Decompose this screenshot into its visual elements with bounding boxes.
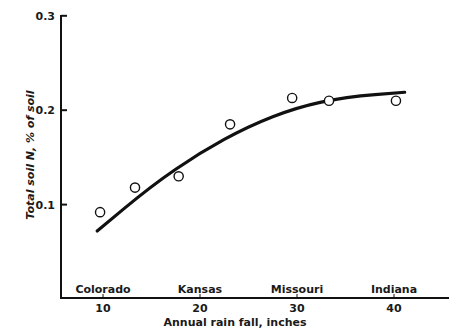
region-label: Indiana [371,283,417,296]
fitted-curve [97,92,404,231]
data-point-marker [130,183,139,192]
data-point-marker [225,120,234,129]
y-tick-label: 0.2 [36,104,56,117]
data-points [95,93,400,216]
axis-labels: 0.10.20.310203040ColoradoKansasMissouriI… [24,10,417,329]
x-tick-label: 20 [192,302,208,315]
fitted-curve-path [97,92,404,231]
x-tick-label: 10 [95,302,111,315]
y-axis-title: Total soil N, % of soil [24,90,37,220]
x-axis-title: Annual rain fall, inches [163,316,306,329]
chart: 0.10.20.310203040ColoradoKansasMissouriI… [0,0,451,332]
x-tick-label: 40 [386,302,402,315]
y-tick-label: 0.3 [36,10,56,23]
data-point-marker [288,93,297,102]
axes [60,15,449,299]
y-tick-label: 0.1 [36,199,56,212]
x-tick-label: 30 [289,302,305,315]
data-point-marker [324,96,333,105]
data-point-marker [95,208,104,217]
region-label: Kansas [178,283,223,296]
region-label: Colorado [75,283,131,296]
region-label: Missouri [271,283,323,296]
data-point-marker [391,96,400,105]
data-point-marker [174,172,183,181]
